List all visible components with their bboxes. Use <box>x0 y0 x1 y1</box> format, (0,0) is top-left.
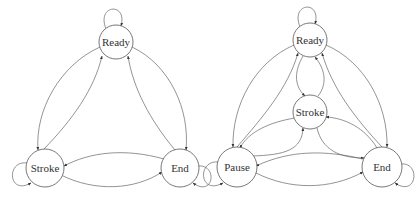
state-node-end: End <box>161 149 199 187</box>
state-label: Ready <box>102 36 131 48</box>
right-state-diagram: Ready Stroke Pause End <box>204 7 414 187</box>
edge-pause-to-stroke <box>252 128 303 156</box>
state-node-end: End <box>362 147 402 187</box>
edge-end-to-ready <box>128 56 175 150</box>
state-label: Stroke <box>296 106 325 118</box>
edge-stroke-to-pause <box>240 118 295 148</box>
edge-ready-to-stroke <box>38 47 100 150</box>
edge-stroke-to-ready <box>44 56 102 149</box>
state-label: End <box>373 161 391 173</box>
edge-ready-to-pause <box>233 45 294 147</box>
left-state-diagram: Ready Stroke End <box>12 9 211 187</box>
state-label: Pause <box>224 161 250 173</box>
edge-ready-to-end <box>132 47 187 150</box>
state-node-ready: Ready <box>293 23 327 57</box>
edge-stroke-to-ready <box>315 57 324 96</box>
state-node-stroke: Stroke <box>26 149 64 187</box>
state-label: End <box>171 162 189 174</box>
state-node-pause: Pause <box>217 147 257 187</box>
state-node-ready: Ready <box>99 25 133 59</box>
edge-stroke-to-end <box>61 172 162 187</box>
state-diagrams: Ready Stroke End <box>0 0 418 197</box>
edge-ready-to-end <box>326 45 387 147</box>
state-label: Ready <box>296 34 325 46</box>
edge-pause-to-ready <box>237 53 298 147</box>
edge-end-to-pause <box>256 153 363 166</box>
edge-end-to-stroke <box>64 153 164 166</box>
state-label: Stroke <box>31 162 60 174</box>
edge-pause-to-end <box>256 172 363 186</box>
edge-end-to-ready <box>322 53 382 147</box>
edge-ready-to-stroke <box>297 56 306 96</box>
state-node-stroke: Stroke <box>293 95 327 129</box>
